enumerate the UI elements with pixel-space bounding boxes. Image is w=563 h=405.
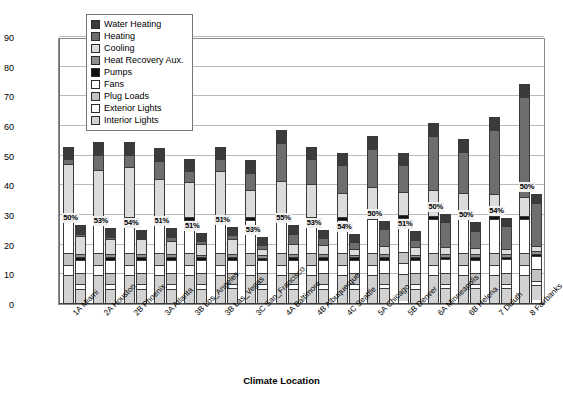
- bar-segment-exterior-lights: [368, 265, 377, 275]
- bar-low-energy[interactable]: [288, 225, 299, 304]
- bar-segment-water-heating: [319, 231, 328, 238]
- bar-low-energy[interactable]: [196, 233, 207, 304]
- bar-segment-fans: [76, 260, 85, 273]
- bar-segment-cooling: [185, 182, 194, 217]
- savings-percent-label: 53%: [245, 225, 261, 235]
- y-tick-label: 60: [0, 123, 14, 132]
- bar-segment-fans: [411, 260, 420, 273]
- bar-low-energy[interactable]: [501, 218, 512, 304]
- chart-root: Site EUI (kBtu/sf/year) 0102030405060708…: [0, 0, 563, 405]
- bar-segment-heating: [399, 165, 408, 191]
- bar-low-energy[interactable]: [75, 225, 86, 304]
- legend-item[interactable]: Fans: [91, 78, 184, 90]
- bar-segment-plug-loads: [368, 253, 377, 265]
- bar-segment-exterior-lights: [459, 265, 468, 275]
- bar-segment-water-heating: [228, 228, 237, 235]
- bar-low-energy[interactable]: [227, 227, 238, 304]
- bar-segment-heating: [277, 143, 286, 181]
- bar-segment-plug-loads: [94, 253, 103, 265]
- bar-segment-water-heating: [64, 148, 73, 160]
- bar-segment-cooling: [319, 245, 328, 254]
- savings-percent-label: 55%: [275, 213, 291, 223]
- bar-baseline[interactable]: [63, 147, 74, 304]
- legend-item[interactable]: Water Heating: [91, 18, 184, 30]
- legend-label: Heating: [104, 32, 135, 41]
- legend-item[interactable]: Heat Recovery Aux.: [91, 54, 184, 66]
- bar-baseline[interactable]: [184, 159, 195, 304]
- bar-low-energy[interactable]: [440, 214, 451, 304]
- y-tick-label: 80: [0, 64, 14, 73]
- bar-segment-heating: [289, 234, 298, 245]
- savings-percent-label: 50%: [458, 210, 474, 220]
- bar-segment-water-heating: [76, 226, 85, 233]
- bar-segment-heating: [459, 152, 468, 193]
- bar-segment-fans: [64, 220, 73, 254]
- bar-segment-cooling: [64, 164, 73, 217]
- bar-segment-exterior-lights: [185, 265, 194, 275]
- bar-segment-fans: [368, 219, 377, 253]
- bar-low-energy[interactable]: [136, 230, 147, 304]
- bar-low-energy[interactable]: [105, 228, 116, 304]
- bar-segment-exterior-lights: [520, 265, 529, 275]
- bar-low-energy[interactable]: [257, 237, 268, 304]
- bar-segment-interior-lights: [64, 275, 73, 303]
- legend-swatch-icon: [91, 68, 100, 77]
- bar-segment-exterior-lights: [399, 263, 408, 273]
- bar-low-energy[interactable]: [470, 222, 481, 304]
- bar-segment-water-heating: [246, 161, 255, 173]
- bar-segment-water-heating: [441, 215, 450, 222]
- legend-label: Water Heating: [104, 20, 161, 29]
- legend-item[interactable]: Heating: [91, 30, 184, 42]
- bar-segment-heating: [429, 136, 438, 190]
- bar-segment-exterior-lights: [490, 265, 499, 275]
- legend-item[interactable]: Interior Lights: [91, 114, 184, 126]
- legend-label: Heat Recovery Aux.: [104, 56, 184, 65]
- bar-segment-plug-loads: [185, 253, 194, 265]
- bar-baseline[interactable]: [367, 136, 378, 304]
- legend-item[interactable]: Cooling: [91, 42, 184, 54]
- bar-segment-exterior-lights: [94, 265, 103, 275]
- bar-segment-heating: [94, 155, 103, 170]
- bar-low-energy[interactable]: [349, 234, 360, 304]
- bar-segment-plug-loads: [125, 253, 134, 265]
- bar-segment-cooling: [338, 193, 347, 216]
- legend-label: Plug Loads: [104, 92, 149, 101]
- y-tick-label: 0: [0, 301, 14, 310]
- bar-segment-cooling: [307, 184, 316, 216]
- bar-segment-exterior-lights: [429, 265, 438, 275]
- legend-item[interactable]: Pumps: [91, 66, 184, 78]
- bar-baseline[interactable]: [519, 84, 530, 304]
- y-tick-label: 10: [0, 271, 14, 280]
- bar-segment-cooling: [399, 192, 408, 215]
- bar-segment-fans: [532, 256, 541, 269]
- savings-percent-label: 50%: [519, 182, 535, 192]
- bar-segment-cooling: [106, 239, 115, 255]
- bar-low-energy[interactable]: [318, 230, 329, 304]
- bar-low-energy[interactable]: [531, 194, 542, 304]
- bar-segment-water-heating: [411, 232, 420, 239]
- y-tick-label: 20: [0, 242, 14, 251]
- bar-segment-water-heating: [94, 143, 103, 155]
- bar-segment-cooling: [520, 197, 529, 216]
- bar-segment-water-heating: [380, 222, 389, 229]
- bar-segment-cooling: [246, 190, 255, 216]
- legend-item[interactable]: Plug Loads: [91, 90, 184, 102]
- bar-segment-water-heating: [532, 195, 541, 202]
- bar-baseline[interactable]: [428, 123, 439, 304]
- bar-segment-fans: [167, 260, 176, 273]
- bar-segment-heating: [502, 226, 511, 248]
- bar-segment-plug-loads: [520, 253, 529, 265]
- bar-segment-exterior-lights: [155, 265, 164, 275]
- bar-low-energy[interactable]: [379, 221, 390, 304]
- bar-segment-plug-loads: [459, 253, 468, 265]
- bar-low-energy[interactable]: [166, 228, 177, 304]
- legend-item[interactable]: Exterior Lights: [91, 102, 184, 114]
- bar-segment-fans: [137, 260, 146, 273]
- legend: Water HeatingHeatingCoolingHeat Recovery…: [86, 14, 193, 131]
- bar-segment-cooling: [216, 171, 225, 216]
- bar-low-energy[interactable]: [410, 231, 421, 304]
- bar-segment-cooling: [228, 239, 237, 254]
- legend-label: Cooling: [104, 44, 135, 53]
- bar-segment-plug-loads: [502, 273, 511, 285]
- savings-percent-label: 54%: [336, 222, 352, 232]
